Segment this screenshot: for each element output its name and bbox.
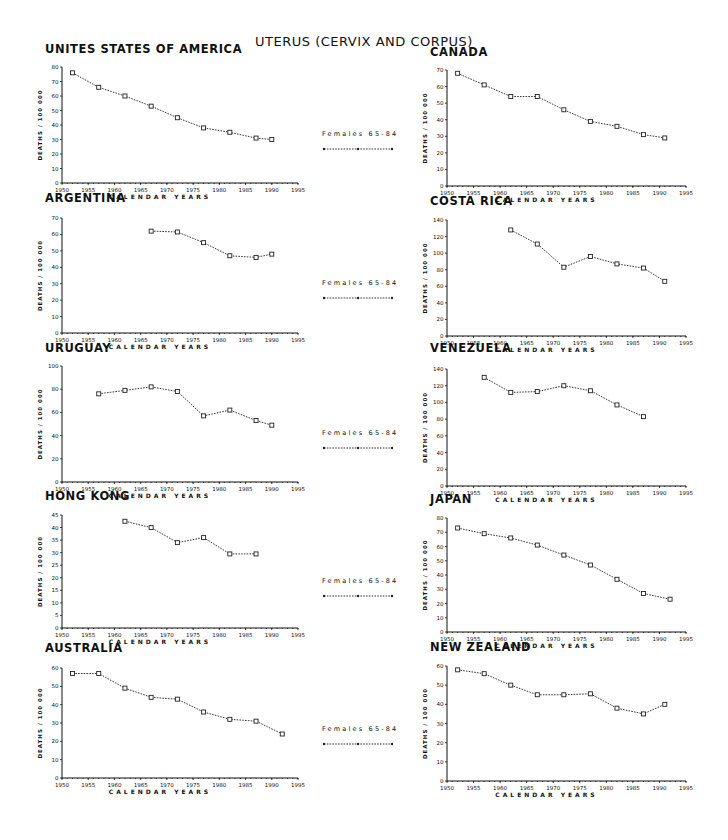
x-tick-label: 1955 bbox=[467, 340, 481, 346]
data-point-marker bbox=[175, 541, 179, 545]
y-tick-label: 10 bbox=[52, 166, 59, 172]
data-point-marker bbox=[642, 266, 646, 270]
x-tick-label: 1955 bbox=[81, 187, 95, 193]
y-tick-label: 60 bbox=[437, 84, 444, 90]
y-tick-label: 25 bbox=[52, 562, 59, 568]
y-axis-label: DEATHS / 100 000 bbox=[37, 89, 43, 160]
y-tick-label: 0 bbox=[440, 183, 444, 189]
y-tick-label: 40 bbox=[52, 433, 59, 439]
data-series bbox=[458, 73, 665, 138]
y-tick-label: 30 bbox=[437, 721, 444, 727]
x-tick-label: 1980 bbox=[599, 490, 613, 496]
x-tick-label: 1995 bbox=[679, 490, 693, 496]
y-tick-label: 60 bbox=[52, 231, 59, 237]
x-tick-label: 1990 bbox=[652, 190, 666, 196]
data-point-marker bbox=[123, 388, 127, 392]
data-point-marker bbox=[202, 536, 206, 540]
data-point-marker bbox=[270, 423, 274, 427]
x-axis-label: CALENDAR YEARS bbox=[109, 492, 211, 499]
y-tick-label: 50 bbox=[437, 682, 444, 688]
data-series bbox=[458, 670, 665, 714]
x-tick-label: 1990 bbox=[265, 337, 279, 343]
y-tick-label: 30 bbox=[52, 720, 59, 726]
y-tick-label: 80 bbox=[437, 416, 444, 422]
y-axis-label: DEATHS / 100 000 bbox=[37, 240, 43, 311]
y-tick-label: 20 bbox=[437, 316, 444, 322]
data-point-marker bbox=[535, 543, 539, 547]
x-tick-label: 1980 bbox=[212, 486, 226, 492]
data-point-marker bbox=[228, 408, 232, 412]
y-tick-label: 60 bbox=[437, 663, 444, 669]
x-tick-label: 1995 bbox=[679, 636, 693, 642]
data-series bbox=[458, 528, 670, 599]
x-tick-label: 1980 bbox=[212, 187, 226, 193]
y-axis-label: DEATHS / 100 000 bbox=[37, 388, 43, 459]
data-point-marker bbox=[482, 672, 486, 676]
x-tick-label: 1950 bbox=[440, 490, 454, 496]
y-tick-label: 40 bbox=[52, 264, 59, 270]
data-point-marker bbox=[123, 686, 127, 690]
data-point-marker bbox=[149, 695, 153, 699]
x-tick-label: 1980 bbox=[599, 636, 613, 642]
y-tick-label: 10 bbox=[52, 757, 59, 763]
y-tick-label: 0 bbox=[55, 180, 59, 186]
x-tick-label: 1950 bbox=[440, 636, 454, 642]
x-tick-label: 1985 bbox=[626, 340, 640, 346]
data-point-marker bbox=[509, 95, 513, 99]
y-tick-label: 0 bbox=[55, 775, 59, 781]
y-tick-label: 0 bbox=[440, 629, 444, 635]
x-tick-label: 1950 bbox=[55, 187, 69, 193]
x-tick-label: 1995 bbox=[291, 782, 305, 788]
line-chart: 0510152025303540451950195519601965197019… bbox=[37, 512, 305, 645]
data-point-marker bbox=[70, 71, 74, 75]
y-tick-label: 30 bbox=[52, 137, 59, 143]
y-tick-label: 45 bbox=[52, 512, 59, 518]
data-point-marker bbox=[588, 563, 592, 567]
x-tick-label: 1980 bbox=[599, 340, 613, 346]
data-point-marker bbox=[149, 526, 153, 530]
x-tick-label: 1985 bbox=[239, 782, 253, 788]
x-axis-label: CALENDAR YEARS bbox=[495, 642, 597, 649]
y-tick-label: 0 bbox=[440, 778, 444, 784]
y-tick-label: 70 bbox=[52, 79, 59, 85]
data-point-marker bbox=[456, 526, 460, 530]
data-point-marker bbox=[270, 252, 274, 256]
x-tick-label: 1950 bbox=[55, 337, 69, 343]
data-point-marker bbox=[509, 683, 513, 687]
data-point-marker bbox=[588, 119, 592, 123]
x-axis-label: CALENDAR YEARS bbox=[495, 196, 597, 203]
data-series bbox=[151, 231, 272, 257]
line-chart: 0102030405060195019551960196519701975198… bbox=[422, 663, 693, 798]
data-point-marker bbox=[482, 375, 486, 379]
data-point-marker bbox=[254, 419, 258, 423]
x-tick-label: 1985 bbox=[239, 486, 253, 492]
data-point-marker bbox=[663, 279, 667, 283]
chart-canvas: 0102030405060708019501955196019651970197… bbox=[0, 0, 728, 840]
y-axis-label: DEATHS / 100 000 bbox=[422, 242, 428, 313]
data-point-marker bbox=[149, 385, 153, 389]
data-series bbox=[125, 521, 256, 554]
data-point-marker bbox=[615, 577, 619, 581]
x-tick-label: 1990 bbox=[265, 187, 279, 193]
data-point-marker bbox=[202, 414, 206, 418]
y-tick-label: 10 bbox=[437, 759, 444, 765]
y-tick-label: 10 bbox=[52, 314, 59, 320]
y-tick-label: 60 bbox=[437, 544, 444, 550]
x-tick-label: 1995 bbox=[291, 632, 305, 638]
y-tick-label: 70 bbox=[437, 67, 444, 73]
x-tick-label: 1985 bbox=[239, 187, 253, 193]
data-point-marker bbox=[97, 392, 101, 396]
data-point-marker bbox=[149, 104, 153, 108]
y-tick-label: 40 bbox=[437, 117, 444, 123]
data-point-marker bbox=[642, 133, 646, 137]
y-tick-label: 100 bbox=[48, 363, 59, 369]
x-axis-label: CALENDAR YEARS bbox=[109, 638, 211, 645]
line-chart: 0102030405060195019551960196519701975198… bbox=[37, 665, 305, 795]
y-axis-label: DEATHS / 100 000 bbox=[37, 687, 43, 758]
data-point-marker bbox=[615, 403, 619, 407]
data-point-marker bbox=[456, 71, 460, 75]
y-tick-label: 0 bbox=[55, 330, 59, 336]
y-tick-label: 60 bbox=[437, 283, 444, 289]
data-point-marker bbox=[123, 94, 127, 98]
y-tick-label: 70 bbox=[52, 215, 59, 221]
